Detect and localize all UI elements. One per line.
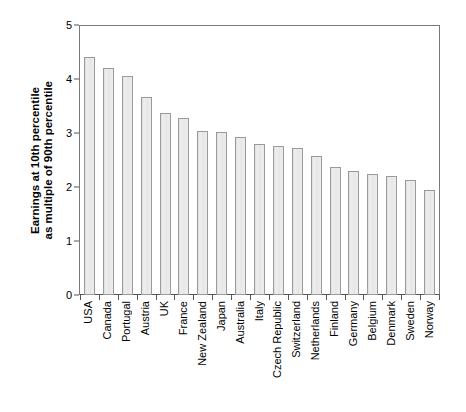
x-axis-tick-mark — [345, 295, 346, 300]
bar — [424, 190, 435, 295]
x-axis-tick-mark — [250, 295, 251, 300]
bar — [367, 174, 378, 296]
x-axis-tick-mark — [420, 295, 421, 300]
x-axis-tick-mark — [80, 295, 81, 300]
x-axis-tick-mark — [137, 295, 138, 300]
x-axis-tick-label: France — [178, 301, 189, 335]
y-axis-tick-label: 2 — [66, 181, 72, 193]
bar — [311, 156, 322, 295]
x-axis-tick-label: Denmark — [386, 301, 397, 346]
bar — [405, 180, 416, 295]
x-axis-tick-label: Finland — [329, 301, 340, 337]
bar — [141, 97, 152, 295]
y-axis-tick-labels: 012345 — [56, 25, 72, 295]
y-axis-tick-label: 1 — [66, 235, 72, 247]
x-axis-tick-mark — [269, 295, 270, 300]
bar — [122, 76, 133, 295]
x-axis-tick-label: USA — [83, 301, 94, 324]
x-axis-tick-label: Japan — [216, 301, 227, 331]
x-axis-tick-mark — [326, 295, 327, 300]
x-axis-tick-mark — [401, 295, 402, 300]
bar — [348, 171, 359, 295]
x-axis-tick-label: Austria — [140, 301, 151, 335]
y-axis-title-line-1: Earnings at 10th percentile — [29, 87, 43, 234]
x-axis-tick-label: Norway — [424, 301, 435, 338]
x-axis-tick-label: Australia — [235, 301, 246, 344]
x-axis-tick-labels: USACanadaPortugalAustriaUKFranceNew Zeal… — [80, 301, 439, 406]
x-axis-tick-label: Belgium — [367, 301, 378, 341]
y-axis-tick-label: 5 — [66, 19, 72, 31]
x-axis-tick-mark — [156, 295, 157, 300]
bar — [84, 57, 95, 295]
bar — [273, 146, 284, 295]
bar — [254, 144, 265, 295]
x-axis-tick-label: New Zealand — [197, 301, 208, 366]
x-axis-tick-mark — [118, 295, 119, 300]
y-axis-tick-label: 4 — [66, 73, 72, 85]
x-axis-tick-mark — [99, 295, 100, 300]
y-axis-title-line-2: as multiple of 90th percentile — [42, 81, 56, 239]
x-axis-tick-mark — [212, 295, 213, 300]
x-axis-tick-mark — [382, 295, 383, 300]
x-axis-tick-label: Netherlands — [310, 301, 321, 360]
bar — [386, 176, 397, 295]
x-axis-tick-label: Portugal — [121, 301, 132, 342]
x-axis-tick-label: Czech Republic — [272, 301, 283, 378]
y-axis-tick-label: 3 — [66, 127, 72, 139]
bar — [178, 118, 189, 295]
x-axis-tick-mark — [231, 295, 232, 300]
x-axis-tick-label: Italy — [254, 301, 265, 321]
x-axis-tick-label: UK — [159, 301, 170, 316]
x-axis-tick-mark — [439, 295, 440, 300]
x-axis-tick-label: Germany — [348, 301, 359, 346]
bar — [160, 113, 171, 295]
bar — [330, 167, 341, 295]
x-axis-tick-mark — [288, 295, 289, 300]
bar — [292, 148, 303, 295]
x-axis-tick-label: Canada — [102, 301, 113, 340]
bars-layer — [80, 26, 439, 295]
x-axis-tick-mark — [307, 295, 308, 300]
y-axis-tick-label: 0 — [66, 289, 72, 301]
bar — [235, 137, 246, 295]
x-axis-tick-mark — [174, 295, 175, 300]
x-axis-tick-label: Switzerland — [291, 301, 302, 358]
x-axis-tick-marks — [80, 295, 439, 300]
bar — [197, 131, 208, 295]
bar — [216, 132, 227, 295]
bar — [103, 68, 114, 295]
x-axis-tick-mark — [193, 295, 194, 300]
x-axis-tick-label: Sweden — [405, 301, 416, 341]
bar-chart: Earnings at 10th percentile as multiple … — [0, 0, 466, 412]
x-axis-tick-mark — [363, 295, 364, 300]
